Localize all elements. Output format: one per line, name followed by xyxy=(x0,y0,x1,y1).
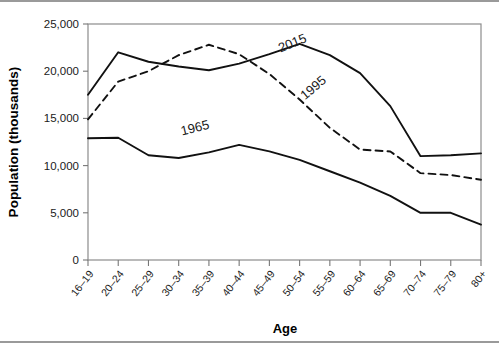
x-tick-label: 70–74 xyxy=(401,268,429,299)
x-axis-ticks: 16–1920–2425–2930–3435–3940–4445–4950–54… xyxy=(68,260,488,298)
population-by-age-line-chart: 05,00010,00015,00020,00025,000 16–1920–2… xyxy=(0,2,499,343)
y-axis-title: Population (thousands) xyxy=(6,67,21,218)
series-annotation-2015: 2015 xyxy=(276,30,308,55)
x-tick-label: 40–44 xyxy=(219,268,247,299)
x-tick-label: 16–19 xyxy=(68,268,96,299)
series-line-1965 xyxy=(88,138,481,225)
x-tick-label: 75–79 xyxy=(431,268,459,299)
x-axis-title: Age xyxy=(273,321,298,336)
x-tick-label: 65–69 xyxy=(370,268,398,299)
y-tick-label: 15,000 xyxy=(44,112,79,124)
x-tick-label: 55–59 xyxy=(310,268,338,299)
x-tick-label: 20–24 xyxy=(98,268,126,299)
x-tick-label: 35–39 xyxy=(189,268,217,299)
y-tick-label: 20,000 xyxy=(44,65,79,77)
y-axis-ticks: 05,00010,00015,00020,00025,000 xyxy=(44,18,88,266)
x-tick-label: 30–34 xyxy=(159,268,187,299)
y-tick-label: 5,000 xyxy=(50,207,79,219)
series-line-1995 xyxy=(88,45,481,180)
x-tick-label: 50–54 xyxy=(280,268,308,299)
y-tick-label: 25,000 xyxy=(44,18,79,30)
x-tick-label: 25–29 xyxy=(129,268,157,299)
x-tick-label: 80+ xyxy=(468,268,488,289)
data-series-group xyxy=(88,44,481,225)
series-annotation-1965: 1965 xyxy=(179,117,211,139)
x-tick-label: 60–64 xyxy=(340,268,368,299)
series-line-2015 xyxy=(88,44,481,156)
x-tick-label: 45–49 xyxy=(250,268,278,299)
figure-container: 05,00010,00015,00020,00025,000 16–1920–2… xyxy=(0,0,499,343)
plot-frame xyxy=(88,24,481,260)
series-annotation-1995: 1995 xyxy=(297,73,329,103)
y-tick-label: 0 xyxy=(73,254,79,266)
y-tick-label: 10,000 xyxy=(44,160,79,172)
